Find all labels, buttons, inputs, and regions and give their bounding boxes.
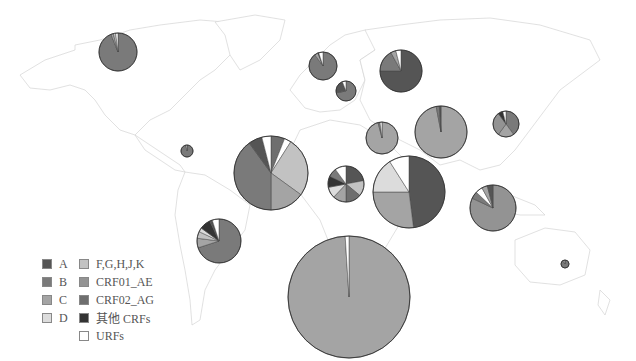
legend-swatch [79, 313, 89, 323]
legend-item-crf02-ag: CRF02_AG [79, 292, 154, 308]
legend-label: CRF02_AG [96, 293, 154, 308]
legend-item-urfs: URFs [79, 328, 124, 344]
legend-item-d: D [42, 310, 68, 326]
central-america-land [135, 135, 185, 172]
legend-swatch [42, 313, 52, 323]
pie-western-europe [309, 52, 337, 80]
pie-east-asia [493, 111, 519, 137]
legend-swatch [42, 295, 52, 305]
legend-swatch [42, 277, 52, 287]
legend-item-a: A [42, 256, 68, 272]
pie-central-africa [328, 166, 364, 202]
pie-north-america [99, 33, 137, 71]
legend-item-b: B [42, 274, 67, 290]
legend-item-crf01-ae: CRF01_AE [79, 274, 153, 290]
australia-land [515, 228, 590, 285]
pie-south-asia [415, 106, 467, 158]
legend-label: B [59, 275, 67, 290]
legend-swatch [42, 259, 52, 269]
legend-swatch [79, 277, 89, 287]
legend-label: CRF01_AE [96, 275, 153, 290]
north-america-land [20, 20, 250, 135]
legend-label: C [59, 293, 67, 308]
pie-south-america [197, 219, 241, 263]
new-zealand-land [598, 290, 610, 315]
legend-label: F,G,H,J,K [96, 257, 144, 272]
legend-item-other-crfs: 其他 CRFs [79, 310, 150, 326]
asia-land [360, 18, 600, 170]
legend-swatch [79, 259, 89, 269]
legend-swatch [79, 295, 89, 305]
legend-label: 其他 CRFs [96, 309, 150, 327]
pie-middle-east [366, 122, 398, 154]
pie-slice-a [409, 156, 445, 228]
legend-label: A [59, 257, 68, 272]
pie-east-africa [373, 156, 445, 228]
legend-label: URFs [96, 329, 124, 344]
pie-southern-africa [288, 236, 410, 358]
legend-label: D [59, 311, 68, 326]
pie-caribbean [181, 145, 193, 157]
pie-central-europe [336, 81, 356, 101]
legend-item-c: C [42, 292, 67, 308]
pie-eastern-europe [380, 50, 422, 92]
pie-oceania [561, 260, 569, 268]
legend-swatch [79, 331, 89, 341]
pie-southeast-asia [470, 185, 516, 231]
pie-north-africa [234, 136, 308, 210]
legend-item-fghjk: F,G,H,J,K [79, 256, 144, 272]
